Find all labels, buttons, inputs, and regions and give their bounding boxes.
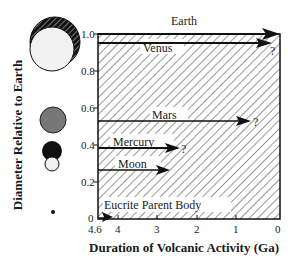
- y-tick-label: 0.2: [81, 176, 95, 188]
- earth-venus-icon: [30, 17, 80, 71]
- x-tick-label: 4.6: [88, 223, 102, 235]
- label-mercury: Mercury: [113, 135, 154, 149]
- uncertain-marker-mercury: ?: [181, 142, 186, 156]
- uncertain-marker-mars: ?: [253, 115, 258, 129]
- x-axis-title: Duration of Volcanic Activity (Ga): [89, 240, 279, 255]
- label-earth: Earth: [171, 14, 197, 28]
- x-tick-label: 1: [233, 223, 239, 235]
- uncertain-marker-venus: ?: [270, 44, 275, 58]
- label-mars: Mars: [152, 108, 177, 122]
- label-eucrite: Eucrite Parent Body: [104, 198, 201, 212]
- label-moon: Moon: [118, 157, 147, 171]
- y-tick-label: 1.0: [81, 28, 95, 40]
- mars-icon: [40, 107, 66, 133]
- y-axis-title: Diameter Relative to Earth: [10, 59, 25, 210]
- x-tick-label: 4: [115, 223, 121, 235]
- x-tick-label: 2: [194, 223, 200, 235]
- y-axis: 1.0 0.8 0.6 0.4 0.2 0: [81, 28, 98, 224]
- y-tick-label: 0.4: [81, 139, 95, 151]
- chart: Earth Venus ? Mars ? Mercury ? Moon Eucr…: [0, 0, 288, 256]
- x-tick-label: 0: [275, 223, 281, 235]
- mercury-moon-icon: [42, 141, 62, 171]
- eucrite-icon: [51, 210, 55, 214]
- y-tick-label: 0.8: [81, 65, 95, 77]
- x-tick-label: 3: [154, 223, 160, 235]
- label-venus: Venus: [143, 41, 173, 55]
- y-tick-label: 0.6: [81, 102, 95, 114]
